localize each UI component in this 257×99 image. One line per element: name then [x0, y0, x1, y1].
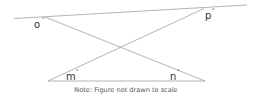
- degree-m: °: [76, 68, 79, 74]
- figure-svg: o ° p ° m ° n ° Note: Figure not drawn t…: [0, 0, 257, 99]
- scale-note: Note: Figure not drawn to scale: [74, 86, 177, 94]
- angle-label-n: n: [170, 71, 176, 82]
- angle-label-o: o: [34, 19, 40, 30]
- geometry-figure: o ° p ° m ° n ° Note: Figure not drawn t…: [0, 0, 257, 99]
- angle-label-m: m: [66, 71, 76, 82]
- degree-p: °: [212, 7, 215, 13]
- angle-label-p: p: [205, 10, 211, 21]
